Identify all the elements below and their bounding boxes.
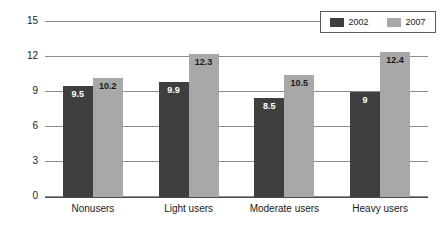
bar-value-label: 8.5 bbox=[254, 102, 284, 111]
legend-swatch-icon-2002 bbox=[330, 18, 344, 27]
category-label: Light users bbox=[141, 203, 237, 215]
bar-2007-light-users: 12.3 bbox=[189, 54, 219, 198]
legend-item-2007: 2007 bbox=[387, 18, 425, 27]
bar-value-label: 10.2 bbox=[93, 82, 123, 91]
category-label: Nonusers bbox=[45, 203, 141, 215]
legend-label-2007: 2007 bbox=[405, 18, 425, 27]
category-label: Heavy users bbox=[332, 203, 428, 215]
bar-2007-nonusers: 10.2 bbox=[93, 78, 123, 197]
bar-chart: 03691215 9.510.29.912.38.510.5912.4 Nonu… bbox=[0, 0, 442, 239]
plot-area: 03691215 9.510.29.912.38.510.5912.4 bbox=[45, 22, 428, 197]
bar-value-label: 9.5 bbox=[63, 90, 93, 99]
y-axis-tick-label: 15 bbox=[5, 16, 38, 26]
bar-value-label: 10.5 bbox=[284, 79, 314, 88]
bar-group: 912.4 bbox=[350, 22, 410, 197]
y-axis-tick-label: 3 bbox=[5, 156, 38, 166]
bar-group: 8.510.5 bbox=[254, 22, 314, 197]
bar-2002-light-users: 9.9 bbox=[159, 82, 189, 198]
bar-group: 9.912.3 bbox=[159, 22, 219, 197]
y-axis-tick-label: 12 bbox=[5, 51, 38, 61]
bar-value-label: 12.3 bbox=[189, 58, 219, 67]
category-label: Moderate users bbox=[237, 203, 333, 215]
y-axis-tick-label: 6 bbox=[5, 121, 38, 131]
legend-label-2002: 2002 bbox=[348, 18, 368, 27]
x-axis-category-labels: NonusersLight usersModerate usersHeavy u… bbox=[45, 203, 428, 223]
bar-group: 9.510.2 bbox=[63, 22, 123, 197]
legend-swatch-icon-2007 bbox=[387, 18, 401, 27]
bar-2007-moderate-users: 10.5 bbox=[284, 75, 314, 198]
bar-2002-nonusers: 9.5 bbox=[63, 86, 93, 197]
bar-value-label: 12.4 bbox=[380, 56, 410, 65]
chart-legend: 2002 2007 bbox=[320, 11, 436, 33]
bar-2002-moderate-users: 8.5 bbox=[254, 98, 284, 197]
bars-layer: 9.510.29.912.38.510.5912.4 bbox=[45, 22, 428, 197]
x-axis-line bbox=[45, 197, 428, 198]
y-axis-tick-label: 9 bbox=[5, 86, 38, 96]
bar-value-label: 9.9 bbox=[159, 86, 189, 95]
y-axis-tick-label: 0 bbox=[5, 191, 38, 201]
bar-2007-heavy-users: 12.4 bbox=[380, 52, 410, 197]
bar-2002-heavy-users: 9 bbox=[350, 92, 380, 197]
bar-value-label: 9 bbox=[350, 96, 380, 105]
legend-item-2002: 2002 bbox=[330, 18, 368, 27]
